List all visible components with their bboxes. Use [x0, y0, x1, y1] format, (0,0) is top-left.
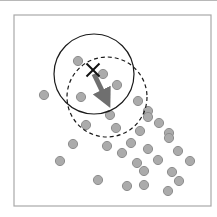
- data-point: [55, 156, 64, 165]
- data-point: [122, 181, 131, 190]
- data-point: [139, 180, 148, 189]
- data-point: [143, 144, 152, 153]
- data-point: [117, 148, 126, 157]
- data-point: [135, 126, 144, 135]
- data-point: [39, 90, 48, 99]
- data-point: [76, 92, 85, 101]
- data-point: [163, 186, 172, 195]
- data-point: [93, 175, 102, 184]
- data-point: [174, 176, 183, 185]
- data-point: [153, 155, 162, 164]
- data-point: [154, 118, 163, 127]
- mean-shift-diagram: [0, 0, 217, 217]
- data-point: [185, 156, 194, 165]
- data-point: [73, 56, 82, 65]
- data-point: [98, 69, 107, 78]
- data-point: [143, 112, 152, 121]
- data-point: [102, 141, 111, 150]
- data-point: [112, 80, 121, 89]
- data-point: [167, 167, 176, 176]
- data-point: [111, 123, 120, 132]
- data-point: [81, 120, 90, 129]
- data-point: [133, 96, 142, 105]
- data-point: [164, 133, 173, 142]
- data-point: [139, 166, 148, 175]
- data-point: [132, 158, 141, 167]
- data-points-group: [39, 56, 194, 195]
- data-point: [173, 146, 182, 155]
- data-point: [126, 138, 135, 147]
- data-point: [68, 139, 77, 148]
